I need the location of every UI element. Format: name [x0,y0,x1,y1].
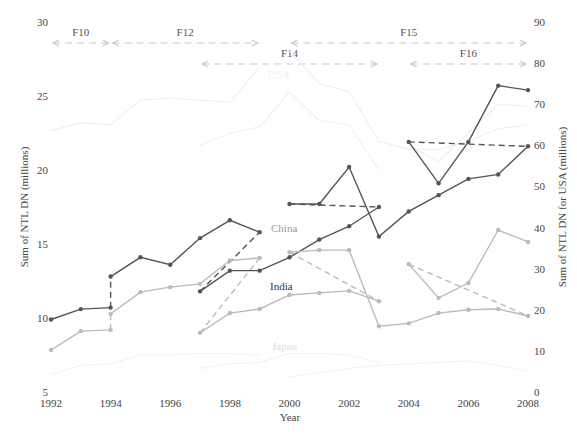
data-point [377,299,381,303]
data-point [108,312,112,316]
series-label-india: India [270,280,293,292]
right-y-axis-ticks: 0102030405060708090 [534,16,546,398]
x-tick: 2008 [517,397,540,409]
series-lines [49,83,530,352]
left-y-tick: 15 [37,238,49,250]
data-point [198,331,202,335]
data-point [436,193,440,197]
series-labels: ChinaIndiaUSAJapan [268,68,298,352]
right-y-tick: 70 [534,98,546,110]
data-point [407,321,411,325]
span-label: F15 [400,26,418,38]
series-line [290,146,529,236]
right-y-tick: 80 [534,57,546,69]
data-point [347,165,351,169]
data-point [198,289,202,293]
data-point [526,314,530,318]
data-point [407,140,411,144]
data-point [317,237,321,241]
faint-series-lines [51,51,528,377]
series-line [409,230,528,298]
data-point [377,205,381,209]
data-point [526,240,530,244]
data-point [168,263,172,267]
series-line [290,250,529,326]
data-point [526,144,530,148]
overlap-connectors [111,142,528,333]
data-point [407,262,411,266]
data-point [407,209,411,213]
data-point [496,172,500,176]
left-y-tick: 30 [37,16,49,28]
ntl-line-chart: F10F12F14F15F16 51015202530 010203040506… [0,0,577,446]
series-line [409,104,528,162]
right-y-tick: 50 [534,180,546,192]
data-point [257,256,261,260]
data-point [198,236,202,240]
data-point [257,230,261,234]
satellite-span-arrows: F10F12F14F15F16 [53,26,526,67]
data-point [228,268,232,272]
series-line [200,207,379,291]
data-point [138,255,142,259]
data-point [228,258,232,262]
series-line [111,220,260,276]
data-point [347,224,351,228]
x-tick: 2004 [398,397,421,409]
series-label-usa: USA [268,68,290,80]
data-point [49,317,53,321]
right-y-tick: 40 [534,222,546,234]
data-point [466,281,470,285]
data-point [496,83,500,87]
data-point [436,296,440,300]
series-line [290,361,529,377]
data-point [347,289,351,293]
data-point [168,285,172,289]
data-point [287,255,291,259]
series-line [51,67,260,131]
data-point [466,308,470,312]
data-point [108,328,112,332]
right-y-tick: 30 [534,263,546,275]
data-point [108,274,112,278]
series-line [290,51,529,150]
x-tick: 2002 [338,397,360,409]
span-label: F12 [177,26,194,38]
data-point [466,177,470,181]
data-point [49,348,53,352]
data-point [138,290,142,294]
data-point [347,248,351,252]
data-point [198,282,202,286]
data-point [228,218,232,222]
right-y-axis-label: Sum of NTL DN for USA (millions) [556,127,569,288]
span-label: F16 [460,47,478,59]
x-tick: 1992 [40,397,62,409]
right-y-tick: 20 [534,304,546,316]
data-point [228,311,232,315]
series-line [200,354,379,369]
data-point [79,307,83,311]
span-label: F10 [72,26,90,38]
series-line [200,92,379,170]
data-point [79,329,83,333]
right-y-tick: 60 [534,139,546,151]
data-point [496,228,500,232]
x-tick: 2000 [279,397,302,409]
series-line [409,86,528,184]
data-point [317,248,321,252]
data-point [287,202,291,206]
data-point [317,291,321,295]
data-point [317,202,321,206]
data-point [257,307,261,311]
data-point [377,324,381,328]
data-point [526,88,530,92]
data-point [377,234,381,238]
left-y-tick: 10 [37,312,49,324]
left-y-axis-ticks: 51015202530 [37,16,49,398]
x-tick: 1994 [100,397,123,409]
data-point [436,181,440,185]
data-point [466,140,470,144]
left-y-tick: 20 [37,164,49,176]
data-point [108,305,112,309]
right-y-tick: 10 [534,345,546,357]
